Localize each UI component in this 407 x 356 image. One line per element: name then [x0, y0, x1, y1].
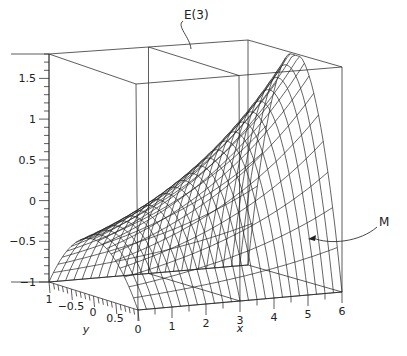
- surface-line-const-x: [198, 122, 291, 297]
- z-tick-label: 0: [29, 195, 36, 208]
- z-tick-label: −1: [20, 276, 36, 289]
- annotation-e3-label: E(3): [184, 8, 209, 22]
- x-tick-label: 0: [135, 323, 142, 336]
- surface-plot: −1−0.500.511.5 1−0.500.5 0123456 x y E(3…: [0, 0, 407, 356]
- y-tick-label: 0: [90, 306, 97, 319]
- surface-line-const-x: [57, 234, 146, 309]
- z-tick-label: 0.5: [19, 154, 37, 167]
- z-tick-label: −0.5: [9, 235, 36, 248]
- y-tick-minor: [89, 295, 90, 301]
- y-tick-minor: [58, 285, 59, 291]
- surface-line-const-y: [93, 55, 295, 239]
- y-tick-major: [49, 282, 50, 293]
- y-tick-minor: [125, 306, 126, 312]
- y-axis: 1−0.500.5: [46, 282, 140, 325]
- annotation-m-label: M: [379, 215, 389, 229]
- surface-line-const-y: [116, 115, 319, 261]
- x-tick-label: 6: [339, 305, 346, 318]
- surface-line-const-y: [53, 223, 252, 272]
- y-tick-minor: [62, 286, 63, 292]
- y-axis-title: y: [82, 323, 90, 336]
- surface-line-const-y: [134, 248, 338, 298]
- y-tick-minor: [111, 302, 112, 308]
- surface-line-const-x: [240, 65, 334, 293]
- y-tick-minor: [129, 307, 130, 313]
- y-tick-major: [71, 289, 72, 300]
- y-tick-minor: [102, 299, 103, 305]
- surface-line-const-x: [248, 54, 342, 292]
- y-tick-minor: [98, 297, 99, 303]
- x-tick-label: 2: [203, 317, 210, 330]
- box-edge: [149, 47, 240, 76]
- y-tick-label: 0.5: [106, 312, 124, 325]
- x-tick-label: 5: [305, 308, 312, 321]
- box-edge: [136, 84, 138, 310]
- y-tick-minor: [120, 304, 121, 310]
- annotation-m: M: [308, 215, 389, 242]
- y-tick-minor: [54, 283, 55, 289]
- y-tick-minor: [67, 288, 68, 294]
- y-tick-minor: [134, 309, 135, 315]
- box-edge: [49, 54, 136, 84]
- surface-line-const-x: [231, 78, 325, 294]
- y-tick-minor: [107, 300, 108, 306]
- y-tick-minor: [85, 293, 86, 299]
- x-axis-title: x: [236, 322, 244, 335]
- z-tick-label: 1: [29, 113, 36, 126]
- y-tick-label: −0.5: [58, 300, 85, 313]
- wireframe-surface: [49, 54, 342, 310]
- y-tick-minor: [76, 290, 77, 296]
- surface-line-const-y: [80, 68, 281, 240]
- x-tick-label: 1: [169, 320, 176, 333]
- surface-line-const-y: [129, 208, 333, 287]
- annotation-m-leader: [313, 227, 377, 242]
- surface-line-const-x: [223, 90, 316, 295]
- box-edge: [239, 76, 240, 302]
- z-tick-label: 1.5: [19, 72, 37, 85]
- x-tick-label: 4: [271, 311, 278, 324]
- surface-line-const-x: [215, 101, 308, 295]
- y-tick-label: 1: [46, 293, 53, 306]
- y-tick-minor: [80, 292, 81, 298]
- z-axis: −1−0.500.511.5: [9, 54, 49, 289]
- surface-line-const-x: [190, 132, 283, 297]
